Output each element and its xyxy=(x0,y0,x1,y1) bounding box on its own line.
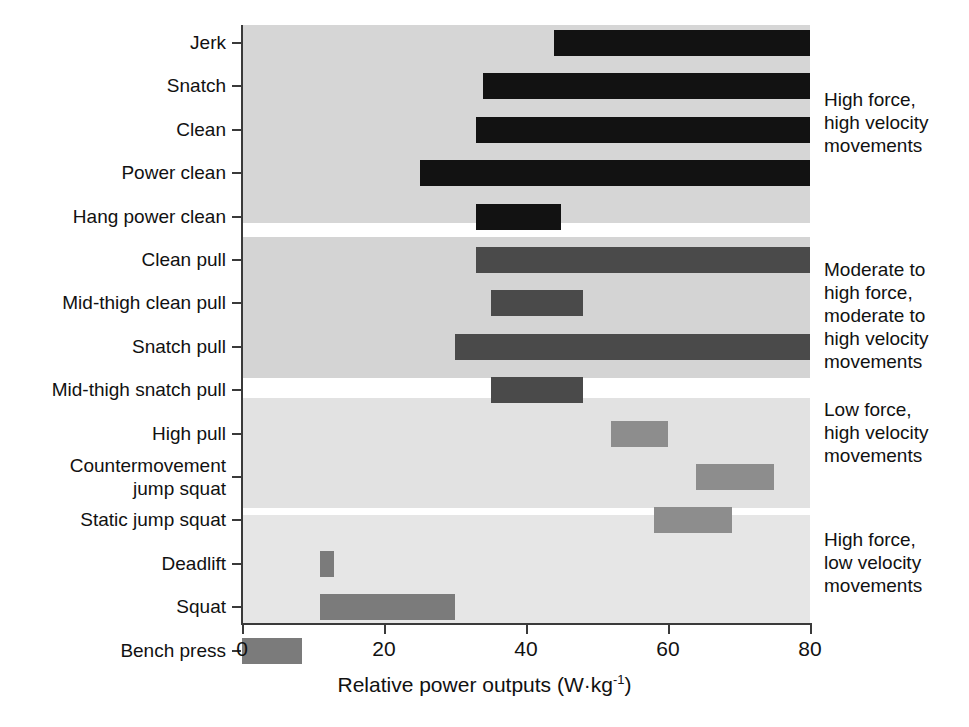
y-axis-tick xyxy=(232,476,241,478)
x-axis-title-exponent: -1 xyxy=(613,672,625,687)
bar-countermovement-jump-squat xyxy=(696,464,774,490)
bar-bench-press xyxy=(242,638,302,664)
y-axis-tick xyxy=(232,606,241,608)
bar-squat xyxy=(320,594,455,620)
y-axis-line xyxy=(241,25,243,624)
y-axis-label: High pull xyxy=(152,423,226,444)
plot-area xyxy=(242,25,810,623)
y-axis-tick xyxy=(232,216,241,218)
annotation-line: low velocity xyxy=(824,551,969,574)
annotation-line: movements xyxy=(824,134,969,157)
y-axis-tick xyxy=(232,172,241,174)
annotation-line: high velocity xyxy=(824,111,969,134)
x-axis-tick xyxy=(384,625,386,634)
y-axis-tick xyxy=(232,129,241,131)
x-axis-tick-label: 20 xyxy=(372,637,395,661)
y-axis-label: Countermovementjump squat xyxy=(0,454,226,500)
x-axis-tick xyxy=(668,625,670,634)
y-axis-label: Mid-thigh clean pull xyxy=(62,292,226,313)
annotation-line: High force, xyxy=(824,528,969,551)
bar-deadlift xyxy=(320,551,334,577)
y-axis-label: Snatch pull xyxy=(132,336,226,357)
bar-static-jump-squat xyxy=(654,507,732,533)
x-axis-tick-label: 40 xyxy=(514,637,537,661)
x-axis-tick-label: 80 xyxy=(798,637,821,661)
annotation-line: high velocity xyxy=(824,327,969,350)
annotation-group-3: Low force, high velocity movements xyxy=(824,398,969,467)
x-axis-tick-label: 60 xyxy=(656,637,679,661)
y-axis-label: Clean pull xyxy=(142,249,227,270)
y-axis-tick xyxy=(232,389,241,391)
annotation-line: Low force, xyxy=(824,398,969,421)
x-axis-tick xyxy=(526,625,528,634)
annotation-line: High force, xyxy=(824,88,969,111)
y-axis-label: Mid-thigh snatch pull xyxy=(52,379,226,400)
x-axis-tick xyxy=(242,625,244,634)
y-axis-tick xyxy=(232,259,241,261)
x-axis-title-middot: · xyxy=(584,673,591,696)
chart-figure: 020406080 Relative power outputs (W·kg-1… xyxy=(0,0,969,727)
bar-snatch xyxy=(483,73,810,99)
x-axis-title-kg: kg xyxy=(591,673,613,696)
annotation-line: movements xyxy=(824,350,969,373)
bar-mid-thigh-snatch-pull xyxy=(491,377,583,403)
y-axis-tick xyxy=(232,519,241,521)
annotation-group-4: High force, low velocity movements xyxy=(824,528,969,597)
bar-clean xyxy=(476,117,810,143)
annotation-group-2: Moderate to high force, moderate to high… xyxy=(824,258,969,373)
x-axis-tick-label: 0 xyxy=(236,637,248,661)
x-axis-title: Relative power outputs (W·kg-1) xyxy=(0,672,969,697)
annotation-group-1: High force, high velocity movements xyxy=(824,88,969,157)
annotation-line: movements xyxy=(824,444,969,467)
y-axis-label: Jerk xyxy=(190,32,226,53)
bar-snatch-pull xyxy=(455,334,810,360)
y-axis-tick xyxy=(232,85,241,87)
x-axis-tick xyxy=(810,625,812,634)
y-axis-tick xyxy=(232,433,241,435)
bar-hang-power-clean xyxy=(476,204,561,230)
y-axis-label: Hang power clean xyxy=(73,206,226,227)
bar-clean-pull xyxy=(476,247,810,273)
y-axis-label: Clean xyxy=(176,119,226,140)
group-band-3 xyxy=(242,398,810,508)
annotation-line: moderate to xyxy=(824,304,969,327)
y-axis-tick xyxy=(232,302,241,304)
x-axis-title-paren: ) xyxy=(625,673,632,696)
y-axis-label: Snatch xyxy=(167,75,226,96)
annotation-line: movements xyxy=(824,574,969,597)
bar-mid-thigh-clean-pull xyxy=(491,290,583,316)
bar-jerk xyxy=(554,30,810,56)
y-axis-label: Power clean xyxy=(121,162,226,183)
bar-power-clean xyxy=(420,160,811,186)
y-axis-label: Static jump squat xyxy=(80,509,226,530)
x-axis-title-text: Relative power outputs (W xyxy=(337,673,583,696)
y-axis-label: Bench press xyxy=(120,640,226,661)
annotation-line: Moderate to xyxy=(824,258,969,281)
annotation-line: high force, xyxy=(824,281,969,304)
annotation-line: high velocity xyxy=(824,421,969,444)
y-axis-label: Deadlift xyxy=(162,553,226,574)
y-axis-label: Squat xyxy=(176,596,226,617)
y-axis-tick xyxy=(232,42,241,44)
y-axis-tick xyxy=(232,563,241,565)
bar-high-pull xyxy=(611,421,668,447)
y-axis-tick xyxy=(232,346,241,348)
